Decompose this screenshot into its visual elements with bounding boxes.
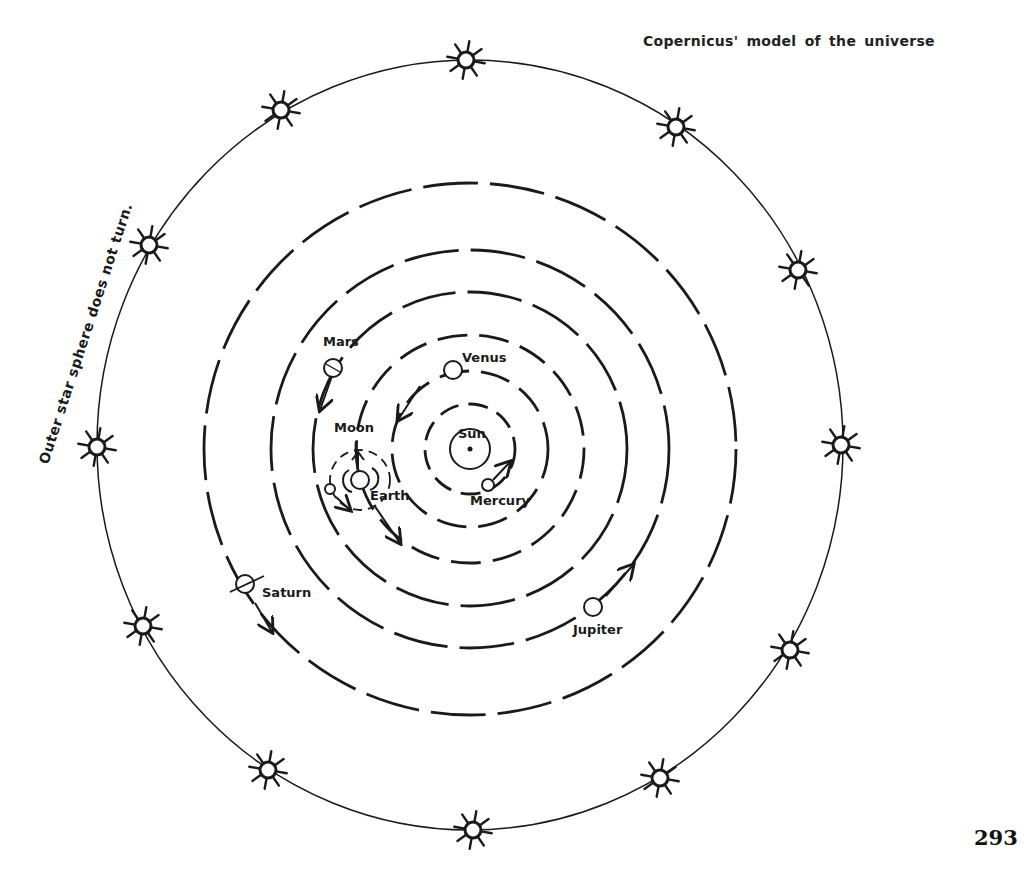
- moon-arrow-icon: [336, 497, 350, 510]
- jupiter-arrow-icon: [606, 565, 633, 596]
- venus-label: Venus: [462, 350, 507, 365]
- venus-arrow-icon: [398, 386, 420, 420]
- mercury-icon: [482, 479, 494, 491]
- mars-label: Mars: [323, 334, 359, 349]
- venus-icon: [444, 361, 462, 379]
- saturn-arrow-icon: [255, 603, 272, 632]
- star-icon: [262, 91, 299, 128]
- side-note: Outer star sphere does not turn.: [36, 201, 136, 466]
- stars: [78, 41, 859, 848]
- mercury-label: Mercury: [470, 493, 531, 508]
- star-icon: [130, 226, 167, 263]
- moon-icon: [325, 484, 335, 494]
- star-icon: [822, 426, 859, 463]
- star-icon: [657, 108, 694, 145]
- earth-icon: [351, 471, 369, 489]
- jupiter-label: Jupiter: [572, 622, 623, 637]
- star-icon: [249, 751, 286, 788]
- star-icon: [779, 251, 816, 288]
- planets: [236, 359, 602, 616]
- star-icon: [124, 607, 161, 644]
- moon-label: Moon: [334, 420, 374, 435]
- mars-arrow-icon: [320, 376, 332, 410]
- earth-label: Earth: [370, 488, 410, 503]
- sun-label: Sun: [458, 426, 486, 441]
- star-icon: [641, 759, 678, 796]
- earth-arrow-icon: [374, 505, 400, 543]
- mercury-arrow-icon: [493, 462, 510, 480]
- copernican-model-diagram: Outer star sphere does not turn.: [0, 0, 1024, 873]
- saturn-label: Saturn: [262, 585, 311, 600]
- jupiter-icon: [584, 598, 602, 616]
